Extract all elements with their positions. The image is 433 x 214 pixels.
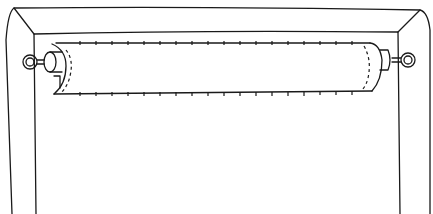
window-frame: [6, 7, 430, 214]
shade-roll: [52, 41, 382, 96]
window-shade-illustration: [0, 0, 433, 214]
left-bracket: [23, 52, 62, 72]
right-bracket: [380, 50, 415, 70]
